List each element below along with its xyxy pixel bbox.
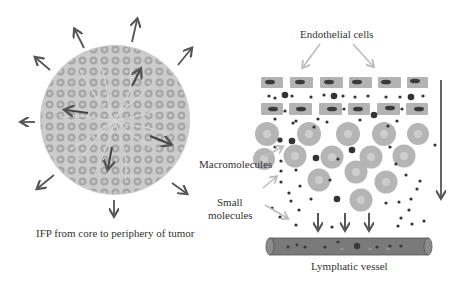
small-molecules-label-line1: Small (217, 196, 243, 208)
diagram-canvas (0, 0, 462, 283)
endothelial-cells-label: Endothelial cells (300, 28, 374, 40)
tumor-caption: IFP from core to periphery of tumor (36, 227, 194, 239)
macromolecules-label: Macromolecules (199, 158, 272, 170)
macromolecules (253, 122, 429, 212)
lymphatic-vessel-label: Lymphatic vessel (311, 260, 388, 272)
drainage-arrows (318, 213, 369, 229)
lymphatic-vessel (266, 238, 432, 255)
tumor (40, 45, 190, 195)
small-molecules-label-line2: molecules (208, 209, 253, 221)
